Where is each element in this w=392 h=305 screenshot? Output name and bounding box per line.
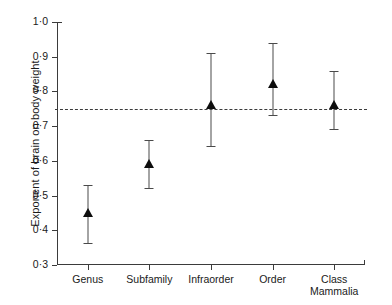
x-axis-tick — [273, 265, 274, 270]
error-bar-cap-upper — [83, 185, 92, 186]
data-point-marker — [268, 79, 278, 88]
y-axis-tick: 0·8 — [52, 91, 57, 92]
y-axis-tick: 0·7 — [52, 126, 57, 127]
y-axis-tick: 1·0 — [52, 22, 57, 23]
top-corner-tick — [57, 22, 62, 23]
error-bar-cap-upper — [268, 43, 277, 44]
chart-figure: Exponent of brain on body weight 1·00·90… — [0, 0, 392, 305]
plot-area: 1·00·90·80·70·60·50·40·3 GenusSubfamilyI… — [57, 22, 365, 265]
error-bar-cap-lower — [83, 243, 92, 244]
x-axis-tick — [334, 265, 335, 270]
x-axis-tick-label: Infraorder — [188, 273, 234, 285]
y-axis-tick-label: 0·8 — [33, 84, 48, 97]
x-axis-tick-label: Class Mammalia — [310, 273, 358, 297]
y-axis-tick-label: 0·4 — [33, 223, 48, 236]
x-axis-tick-label: Order — [259, 273, 286, 285]
y-axis-tick-label: 1·0 — [33, 15, 48, 28]
x-axis-tick — [88, 265, 89, 270]
y-axis-tick-label: 0·7 — [33, 119, 48, 132]
y-axis-tick-label: 0·5 — [33, 189, 48, 202]
y-axis-line — [57, 22, 58, 265]
y-axis-tick-label: 0·9 — [33, 50, 48, 63]
data-point-marker — [329, 100, 339, 109]
error-bar-cap-lower — [268, 115, 277, 116]
right-corner-tick — [364, 260, 365, 265]
y-axis-tick: 0·9 — [52, 57, 57, 58]
x-axis-tick — [149, 265, 150, 270]
x-axis-tick-label: Genus — [72, 273, 103, 285]
y-axis-tick: 0·4 — [52, 230, 57, 231]
error-bar-cap-lower — [207, 146, 216, 147]
y-axis-tick-label: 0·6 — [33, 154, 48, 167]
error-bar-cap-lower — [145, 188, 154, 189]
y-axis-tick: 0·6 — [52, 161, 57, 162]
y-axis-tick: 0·3 — [52, 265, 57, 266]
data-point-marker — [206, 100, 216, 109]
x-axis-tick — [211, 265, 212, 270]
y-axis-tick: 0·5 — [52, 196, 57, 197]
error-bar-cap-upper — [330, 71, 339, 72]
data-point-marker — [83, 208, 93, 217]
error-bar-cap-lower — [330, 129, 339, 130]
error-bar-cap-upper — [207, 53, 216, 54]
x-axis-tick-label: Subfamily — [126, 273, 172, 285]
data-point-marker — [144, 159, 154, 168]
y-axis-tick-label: 0·3 — [33, 258, 48, 271]
error-bar-cap-upper — [145, 140, 154, 141]
